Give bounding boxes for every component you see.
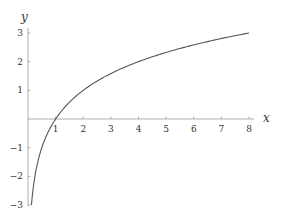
y-tick-label: −1 bbox=[10, 143, 23, 153]
axes bbox=[28, 28, 254, 206]
y-tick-label: 2 bbox=[17, 57, 23, 67]
y-tick-label: −3 bbox=[10, 200, 24, 210]
x-tick-label: 7 bbox=[219, 124, 225, 134]
x-tick-label: 3 bbox=[108, 124, 114, 134]
y-tick-label: 3 bbox=[17, 28, 23, 38]
y-tick-label: 1 bbox=[17, 85, 23, 95]
y-tick-label: −2 bbox=[10, 171, 23, 181]
x-tick-label: 2 bbox=[80, 124, 86, 134]
x-tick-label: 4 bbox=[136, 124, 142, 134]
x-tick-label: 1 bbox=[53, 124, 59, 134]
x-tick-label: 5 bbox=[163, 124, 169, 134]
log-function-chart: 12345678−3−2−1123 x y bbox=[0, 0, 288, 220]
x-axis-label: x bbox=[263, 111, 270, 125]
x-tick-label: 6 bbox=[191, 124, 197, 134]
y-axis-label: y bbox=[20, 10, 28, 24]
x-tick-label: 8 bbox=[246, 124, 252, 134]
